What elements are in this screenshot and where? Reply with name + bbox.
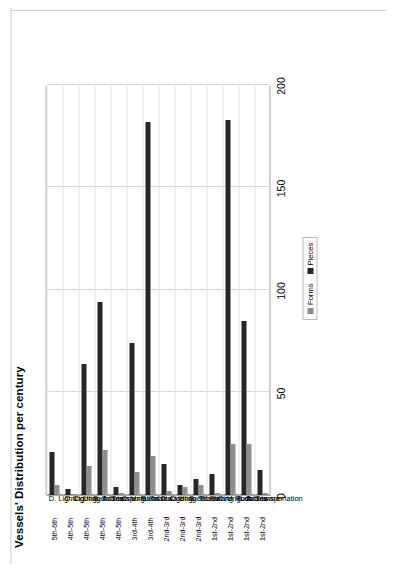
legend-item-pieces: Pieces (305, 243, 314, 275)
value-tick-150: 150 (274, 180, 286, 198)
century-label: 4th-5th (82, 506, 91, 552)
legend-item-forms: Forms (305, 283, 314, 314)
century-label: 1st-2nd (210, 506, 219, 552)
century-label: 4th-5th (114, 506, 123, 552)
scan-edge-right (10, 10, 386, 11)
century-label: 5th-6th (50, 506, 59, 552)
chart-legend: Forms Pieces (302, 237, 317, 320)
bar-chart: Vessels' Distribution per century 050100… (34, 58, 344, 496)
gridline-200 (46, 84, 269, 85)
century-label: 2nd-3rd (162, 506, 171, 552)
legend-swatch-forms-icon (307, 308, 313, 314)
value-tick-0: 0 (274, 493, 286, 499)
century-label: 4th-5th (66, 506, 75, 552)
chart-title: Vessels' Distribution per century (12, 128, 24, 548)
value-tick-100: 100 (274, 282, 286, 300)
value-tick-50: 50 (274, 388, 286, 400)
scan-edge-top (10, 8, 11, 564)
century-label: 2nd-3rd (178, 506, 187, 552)
legend-label-pieces: Pieces (305, 243, 314, 266)
rotated-chart-sheet: Vessels' Distribution per century 050100… (0, 0, 393, 570)
value-axis-ticks: 050100150200 (274, 86, 290, 496)
century-label: 1st-2nd (258, 506, 267, 552)
century-label: 3rd-4th (146, 506, 155, 552)
century-axis-labels: 5th-6th4th-5th4th-5th4th-5th4th-5th3rd-4… (34, 86, 258, 496)
legend-swatch-pieces-icon (307, 268, 313, 274)
scanned-figure-page: Vessels' Distribution per century 050100… (0, 0, 393, 570)
century-label: 3rd-4th (130, 506, 139, 552)
century-label: 4th-5th (98, 506, 107, 552)
legend-label-forms: Forms (305, 283, 314, 305)
century-label: 2nd-3rd (194, 506, 203, 552)
value-tick-200: 200 (274, 77, 286, 95)
century-label: 1st-2nd (242, 506, 251, 552)
bar-forms (262, 493, 267, 495)
century-label: 1st-2nd (226, 506, 235, 552)
